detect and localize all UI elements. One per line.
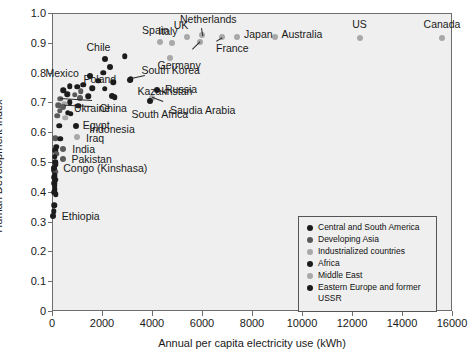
scatter-chart-figure: 00.10.20.30.40.50.60.70.80.91.0020004000… [0,0,476,363]
point-label: Russia [165,84,197,95]
x-axis-tick-label: 4000 [140,317,164,329]
data-point [62,115,68,121]
data-point [74,134,80,140]
y-axis-tick-label: 0.9 [2,37,46,49]
point-label: Egypt [83,120,110,131]
legend-label: Central and South America [318,222,420,233]
data-point [102,56,108,62]
legend-label: Developing Asia [318,234,379,245]
data-point [64,91,70,97]
x-axis-tick-mark [302,311,303,316]
data-point [357,35,363,41]
data-point [122,53,128,59]
x-axis-title: Annual per capita electricity use (kWh) [158,337,346,349]
data-point [68,111,74,117]
data-point [169,40,175,46]
data-point [157,39,163,45]
data-point [73,123,79,129]
point-label: China [100,103,127,114]
data-point [439,35,445,41]
y-axis-tick-mark [48,13,52,14]
x-axis-tick-label: 6000 [190,317,214,329]
legend-item: Central and South America [305,222,430,233]
point-label: South Africa [132,109,189,120]
point-label: Spain [142,25,169,36]
y-axis-tick-mark [48,222,52,223]
legend-label: Africa [318,258,340,269]
point-label: Chile [87,42,111,53]
y-axis-tick-mark [48,43,52,44]
x-axis-tick-label: 2000 [90,317,114,329]
y-axis-tick-label: 1.0 [2,7,46,19]
y-axis-title: Human Development Index [0,99,4,232]
legend-marker-icon [307,237,313,243]
point-label: Ethiopia [62,211,100,222]
data-point [67,83,73,89]
legend-label: Middle East [318,270,362,281]
data-point [89,85,95,91]
y-axis-tick-mark [48,251,52,252]
y-axis-tick-label: 0.7 [2,96,46,108]
y-axis-tick-label: 0.2 [2,245,46,257]
legend-marker-icon [307,261,313,267]
y-axis-tick-label: 0.3 [2,216,46,228]
chart-legend: Central and South AmericaDeveloping Asia… [298,216,437,312]
x-axis-tick-label: 12000 [337,317,368,329]
x-axis-tick-label: 14000 [387,317,418,329]
x-axis-tick-mark [202,311,203,316]
point-label: US [352,19,367,30]
data-point [50,213,56,219]
y-axis-tick-mark [48,281,52,282]
legend-label: Industrialized countries [318,246,405,257]
y-axis-tick-label: 0.8 [2,67,46,79]
legend-marker-icon [307,285,313,291]
data-point [107,64,113,70]
point-label: Poland [84,74,117,85]
y-axis-tick-label: 0.6 [2,126,46,138]
point-label: Congo (Kinshasa) [63,163,147,174]
point-label: Mexico [46,68,79,79]
y-axis-tick-mark [48,132,52,133]
y-axis-tick-label: 0.4 [2,186,46,198]
data-point [51,165,57,171]
x-axis-tick-mark [52,311,53,316]
y-axis-tick-mark [48,102,52,103]
x-axis-tick-mark [252,311,253,316]
x-axis-tick-mark [402,311,403,316]
point-label: Japan [244,29,273,40]
data-point [53,191,59,197]
data-point [78,88,84,94]
y-axis-tick-label: 0 [2,305,46,317]
data-point [184,34,190,40]
data-point [58,136,64,142]
data-point [147,98,153,104]
legend-marker-icon [307,249,313,255]
point-label: Netherlands [180,14,237,25]
x-axis-tick-label: 16000 [437,317,468,329]
point-label: Iraq [86,133,104,144]
data-point [234,34,240,40]
legend-item: Eastern Europe and former USSR [305,282,430,303]
legend-item: Middle East [305,270,430,281]
data-point [60,146,66,152]
x-axis-tick-mark [452,311,453,316]
point-label: France [216,43,249,54]
x-axis-tick-label: 0 [49,317,55,329]
legend-marker-icon [307,273,313,279]
data-point [86,94,92,100]
data-point [56,123,62,129]
point-label: Canada [424,19,461,30]
legend-item: Industrialized countries [305,246,430,257]
y-axis-tick-label: 0.5 [2,156,46,168]
point-label: Australia [282,29,323,40]
y-axis-tick-label: 0.1 [2,275,46,287]
legend-item: Developing Asia [305,234,430,245]
data-point [54,113,60,119]
legend-label: Eastern Europe and former USSR [318,282,430,303]
x-axis-tick-mark [102,311,103,316]
data-point [52,202,58,208]
point-label: South Korea [142,65,200,76]
legend-marker-icon [307,225,313,231]
x-axis-tick-mark [152,311,153,316]
data-point [102,86,108,92]
